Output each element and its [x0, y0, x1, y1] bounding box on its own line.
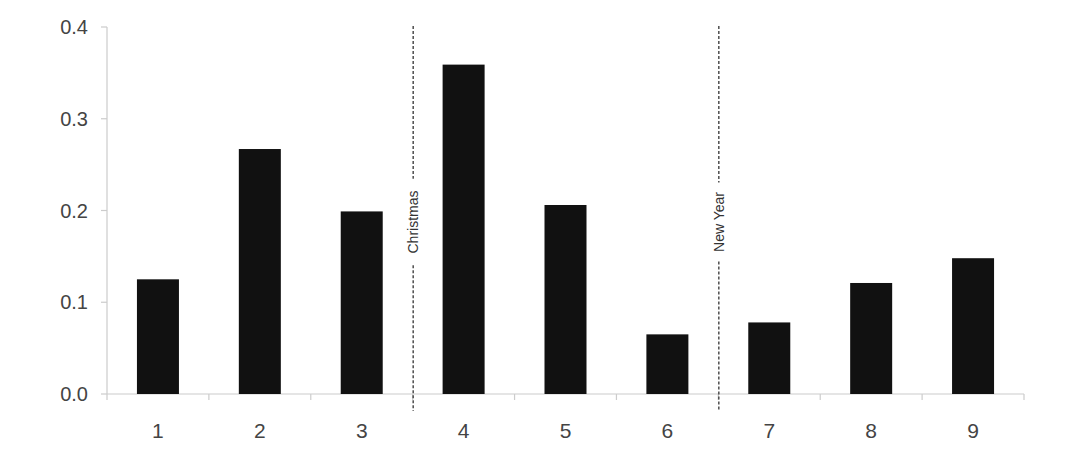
y-axis: 0.00.10.20.30.4: [60, 16, 107, 405]
x-tick-label: 1: [152, 419, 164, 442]
x-tick-label: 2: [254, 419, 266, 442]
annotation-label: New Year: [711, 192, 727, 252]
y-tick-label: 0.4: [60, 16, 88, 38]
bar-6: [646, 334, 688, 394]
x-tick-label: 8: [865, 419, 877, 442]
bar-9: [952, 258, 994, 394]
y-tick-label: 0.2: [60, 200, 88, 222]
y-tick-label: 0.1: [60, 291, 88, 313]
bar-chart: 0.00.10.20.30.4 123456789 ChristmasNew Y…: [0, 0, 1078, 464]
annotation-new-year: New Year: [711, 26, 727, 411]
annotation-label: Christmas: [405, 190, 421, 253]
bar-2: [239, 149, 281, 394]
x-tick-label: 7: [763, 419, 775, 442]
bar-5: [545, 205, 587, 394]
x-axis: 123456789: [107, 394, 1024, 442]
x-tick-label: 5: [560, 419, 572, 442]
y-tick-label: 0.0: [60, 383, 88, 405]
x-tick-label: 3: [356, 419, 368, 442]
bar-8: [850, 283, 892, 394]
x-tick-label: 6: [662, 419, 674, 442]
bar-series: [137, 65, 994, 394]
y-tick-label: 0.3: [60, 108, 88, 130]
x-tick-label: 9: [967, 419, 979, 442]
bar-4: [443, 65, 485, 394]
bar-7: [748, 322, 790, 394]
bar-3: [341, 211, 383, 394]
bar-1: [137, 279, 179, 394]
annotation-christmas: Christmas: [405, 26, 421, 411]
x-tick-label: 4: [458, 419, 470, 442]
